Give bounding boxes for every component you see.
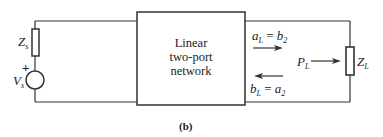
- network-label-line-2: two-port: [137, 50, 245, 64]
- network-label-line-1: Linear: [137, 36, 245, 50]
- network-label-line-3: network: [137, 64, 245, 78]
- polarity-plus-sign: +: [22, 61, 29, 74]
- load-power-label: PL: [297, 55, 309, 71]
- source-impedance-resistor: [32, 29, 39, 56]
- source-impedance-label: Zs: [18, 35, 28, 51]
- source-voltage-label: Vs: [13, 74, 24, 90]
- load-impedance-resistor: [346, 47, 354, 75]
- figure-caption: (b): [179, 121, 192, 132]
- two-port-network-label: Linear two-port network: [137, 36, 245, 78]
- load-impedance-label: ZL: [357, 55, 369, 71]
- reflected-wave-label: bL = a2: [250, 82, 285, 98]
- incident-wave-label: aL = b2: [252, 29, 287, 45]
